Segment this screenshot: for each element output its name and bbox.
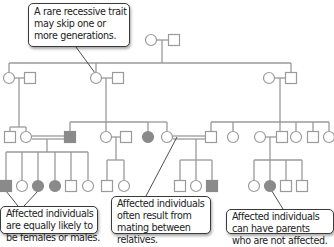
unaffected-male-symbol	[66, 181, 77, 192]
pedigree-lines	[6, 40, 329, 180]
pointer-left-b	[24, 191, 38, 206]
callout-line: can have parents	[232, 223, 328, 235]
unaffected-female-symbol	[264, 73, 275, 84]
unaffected-female-symbol	[291, 132, 302, 143]
pointer-left-a	[6, 191, 18, 206]
affected-male-symbol	[207, 181, 218, 192]
affected-male-symbol	[1, 181, 12, 192]
unaffected-female-symbol	[324, 132, 334, 143]
unaffected-female-symbol	[17, 181, 28, 192]
unaffected-female-symbol	[162, 132, 173, 143]
unaffected-male-symbol	[286, 73, 297, 84]
callout-line: relatives.	[117, 234, 205, 246]
callout-line: are equally likely to	[6, 220, 92, 232]
unaffected-female-symbol	[119, 181, 130, 192]
unaffected-female-symbol	[83, 181, 94, 192]
unaffected-male-symbol	[281, 181, 292, 192]
affected-female-symbol	[33, 181, 44, 192]
unaffected-male-symbol	[206, 132, 217, 143]
unaffected-female-symbol	[191, 181, 202, 192]
pedigree-symbols	[1, 35, 334, 192]
affected-female-symbol	[265, 181, 276, 192]
unaffected-male-symbol	[169, 35, 180, 46]
unaffected-female-symbol	[101, 132, 112, 143]
unaffected-female-symbol	[228, 132, 239, 143]
callout-line: A rare recessive trait	[34, 6, 124, 18]
pointer-middle	[146, 137, 177, 196]
unaffected-male-symbol	[25, 73, 36, 84]
affected-female-symbol	[50, 181, 61, 192]
unaffected-male-symbol	[297, 181, 308, 192]
pointer-top	[76, 47, 95, 73]
callout-skip-generations: A rare recessive trait may skip one or m…	[28, 3, 130, 47]
affected-female-symbol	[143, 132, 154, 143]
unaffected-female-symbol	[21, 132, 32, 143]
unaffected-male-symbol	[308, 132, 319, 143]
unaffected-male-symbol	[121, 132, 132, 143]
callout-line: Affected individuals	[232, 211, 328, 223]
unaffected-male-symbol	[113, 73, 124, 84]
unaffected-female-symbol	[146, 35, 157, 46]
callout-equal-sexes: Affected individuals are equally likely …	[0, 206, 98, 234]
affected-male-symbol	[65, 132, 76, 143]
unaffected-male-symbol	[5, 132, 16, 143]
unaffected-female-symbol	[4, 73, 15, 84]
callout-consanguinity: Affected individuals often result from m…	[111, 196, 211, 234]
callout-line: be females or males.	[6, 232, 92, 244]
callout-line: Affected individuals	[6, 208, 92, 220]
callout-line: who are not affected.	[232, 235, 328, 247]
unaffected-female-symbol	[249, 181, 260, 192]
unaffected-female-symbol	[91, 73, 102, 84]
callout-line: more generations.	[34, 30, 124, 42]
unaffected-male-symbol	[175, 181, 186, 192]
callout-line: often result from	[117, 210, 205, 222]
callout-pointers	[6, 47, 283, 209]
callout-line: Affected individuals	[117, 198, 205, 210]
unaffected-female-symbol	[255, 132, 266, 143]
callout-line: may skip one or	[34, 18, 124, 30]
unaffected-male-symbol	[102, 181, 113, 192]
callout-line: mating between	[117, 222, 205, 234]
unaffected-male-symbol	[277, 132, 288, 143]
callout-unaffected-parents: Affected individuals can have parents wh…	[226, 209, 334, 234]
